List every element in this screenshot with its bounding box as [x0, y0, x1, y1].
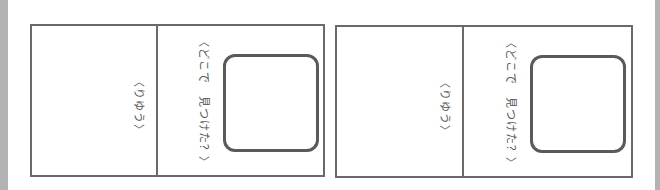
- page-edge-left: [0, 0, 8, 190]
- where-found-prompt: 〈どこで 見つけた？〉: [197, 36, 213, 168]
- drawing-box[interactable]: [530, 55, 626, 153]
- drawing-box[interactable]: [223, 54, 319, 152]
- observation-card-1: 〈どこで 見つけた？〉 〈りゆう〉: [30, 24, 325, 177]
- observation-card-2: 〈どこで 見つけた？〉 〈りゆう〉: [335, 25, 633, 178]
- page-edge-right: [655, 0, 660, 190]
- reason-prompt: 〈りゆう〉: [132, 76, 148, 136]
- card-divider: [462, 27, 464, 176]
- card-divider: [156, 26, 158, 175]
- where-found-prompt: 〈どこで 見つけた？〉: [504, 37, 520, 169]
- reason-prompt: 〈りゆう〉: [438, 77, 454, 137]
